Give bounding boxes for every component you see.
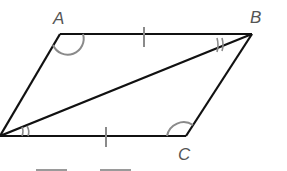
- vertex-label-c: C: [178, 145, 191, 164]
- parallelogram-diagram: A B C: [0, 0, 287, 171]
- angle-arc-c: [167, 122, 193, 136]
- side-da: [0, 34, 60, 136]
- vertex-label-b: B: [250, 8, 261, 27]
- vertex-label-a: A: [52, 9, 64, 28]
- diagonal-db: [0, 34, 252, 136]
- double-angle-mark-d: [22, 126, 29, 136]
- side-bc: [186, 34, 252, 136]
